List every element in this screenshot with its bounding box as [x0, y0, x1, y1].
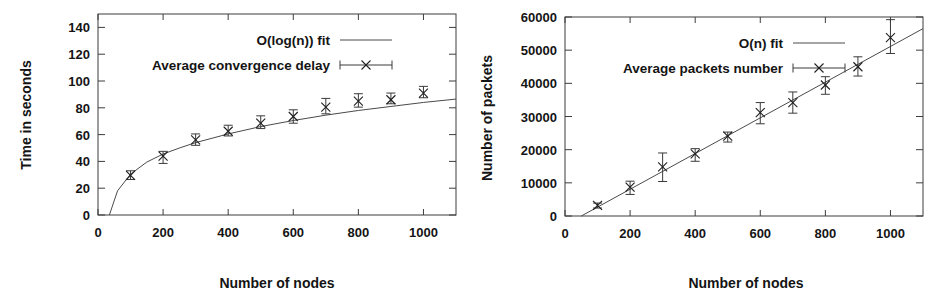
x-tick-label: 1000: [409, 225, 438, 240]
data-point: [354, 94, 363, 107]
data-point: [321, 98, 330, 113]
data-point: [723, 132, 732, 142]
data-point: [821, 77, 830, 95]
data-point: [191, 134, 200, 145]
fit-curve: [581, 29, 923, 216]
data-point: [224, 125, 233, 136]
figure-container: 02040608010012014002004006008001000O(log…: [0, 0, 942, 302]
data-point: [658, 153, 667, 182]
y-axis-title-left: Time in seconds: [18, 60, 34, 170]
data-point: [159, 151, 168, 163]
x-tick-label: 1000: [876, 226, 905, 241]
chart-panel-convergence-delay: 02040608010012014002004006008001000O(log…: [0, 0, 471, 302]
x-tick-label: 400: [217, 225, 239, 240]
y-tick-label: 20000: [521, 143, 557, 158]
y-tick-label: 20: [76, 181, 90, 196]
data-point: [256, 116, 265, 129]
x-tick-label: 200: [152, 225, 174, 240]
y-axis-title-right: Number of packets: [479, 55, 495, 181]
x-tick-label: 200: [619, 226, 641, 241]
packets-number-plot: 0100002000030000400005000060000020040060…: [471, 0, 942, 302]
x-tick-label: 800: [348, 225, 370, 240]
data-point: [419, 86, 428, 97]
y-tick-label: 0: [83, 208, 90, 223]
x-tick-label: 800: [815, 226, 837, 241]
y-tick-label: 40000: [521, 76, 557, 91]
data-point: [756, 103, 765, 124]
y-tick-label: 80: [76, 101, 90, 116]
y-tick-label: 30000: [521, 110, 557, 125]
x-tick-label: 0: [94, 225, 101, 240]
data-point: [126, 171, 135, 180]
legend-label: O(log(n)) fit: [257, 33, 331, 48]
y-tick-label: 0: [550, 209, 557, 224]
y-tick-label: 40: [76, 154, 90, 169]
y-tick-label: 50000: [521, 43, 557, 58]
data-point: [788, 92, 797, 113]
x-axis-title-left: Number of nodes: [219, 275, 334, 291]
y-tick-label: 60000: [521, 10, 557, 25]
y-tick-label: 100: [68, 74, 90, 89]
chart-panel-packets-number: 0100002000030000400005000060000020040060…: [471, 0, 942, 302]
y-tick-label: 10000: [521, 176, 557, 191]
x-tick-label: 600: [282, 225, 304, 240]
convergence-delay-plot: 02040608010012014002004006008001000O(log…: [0, 0, 471, 302]
y-tick-label: 140: [68, 20, 90, 35]
y-tick-label: 120: [68, 47, 90, 62]
data-point: [386, 93, 395, 104]
legend-label: O(n) fit: [739, 36, 784, 51]
legend-label: Average convergence delay: [152, 58, 331, 73]
y-tick-label: 60: [76, 128, 90, 143]
x-tick-label: 400: [684, 226, 706, 241]
legend-label: Average packets number: [623, 61, 784, 76]
x-tick-label: 0: [561, 226, 568, 241]
x-tick-label: 600: [749, 226, 771, 241]
x-axis-title-right: Number of nodes: [688, 275, 803, 291]
